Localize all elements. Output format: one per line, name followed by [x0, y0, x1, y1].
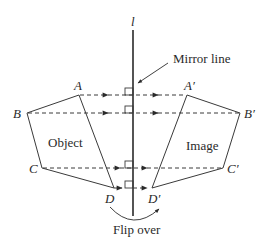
flip-over-label: Flip over [113, 222, 161, 237]
flip-over-arrow: Flip over [110, 207, 161, 237]
object-label: Object [48, 135, 83, 150]
right-angle-markers [125, 88, 133, 188]
mirror-line-callout-text: Mirror line [173, 51, 231, 66]
mirror-line-label: l [131, 14, 135, 29]
label-B-prime: B′ [244, 106, 255, 121]
label-C: C [29, 161, 38, 176]
label-D: D [104, 191, 115, 206]
label-A-prime: A′ [183, 78, 195, 93]
label-C-prime: C′ [227, 161, 239, 176]
label-B: B [13, 106, 21, 121]
label-A: A [73, 78, 82, 93]
image-label: Image [186, 138, 219, 153]
reflection-diagram: l Mirror line [0, 0, 267, 248]
label-D-prime: D′ [147, 191, 160, 206]
